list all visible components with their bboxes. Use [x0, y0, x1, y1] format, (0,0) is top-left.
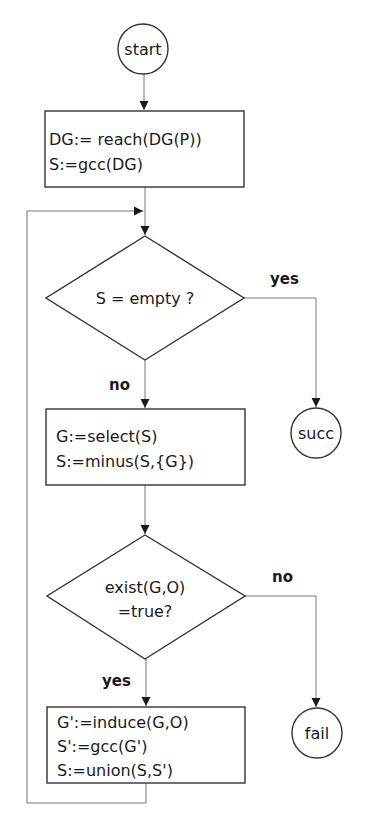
node-induce-line-1: G':=induce(G,O): [57, 713, 189, 732]
node-start-label: start: [124, 40, 161, 59]
node-succ-label: succ: [298, 424, 334, 443]
node-check-empty: S = empty ?: [46, 236, 244, 360]
edge-label-yes-induce: yes: [102, 672, 131, 690]
node-induce-line-3: S:=union(S,S'): [57, 761, 173, 780]
node-check-empty-label: S = empty ?: [96, 289, 195, 308]
node-init: DG:= reach(DG(P)) S:=gcc(DG): [45, 111, 244, 187]
node-select-line-1: G:=select(S): [56, 427, 157, 446]
node-start: start: [118, 24, 168, 74]
node-fail: fail: [292, 708, 342, 758]
flowchart-canvas: start DG:= reach(DG(P)) S:=gcc(DG) S = e…: [0, 0, 369, 836]
node-induce: G':=induce(G,O) S':=gcc(G') S:=union(S,S…: [47, 707, 245, 783]
edge-label-no-fail: no: [272, 568, 293, 586]
edge-check-exist-no-to-fail: [245, 596, 316, 707]
node-fail-label: fail: [305, 724, 329, 743]
edge-label-no-select: no: [109, 376, 130, 394]
edge-check-empty-yes-to-succ: [244, 298, 316, 407]
node-induce-line-2: S':=gcc(G'): [57, 737, 147, 756]
node-succ: succ: [291, 408, 341, 458]
node-init-line-1: DG:= reach(DG(P)): [49, 130, 202, 149]
edge-label-yes-succ: yes: [270, 270, 299, 288]
node-select: G:=select(S) S:=minus(S,{G}): [46, 409, 245, 485]
node-select-line-2: S:=minus(S,{G}): [56, 452, 194, 471]
node-check-exist-line-2: =true?: [118, 602, 173, 621]
node-check-exist-line-1: exist(G,O): [105, 578, 186, 597]
node-init-line-2: S:=gcc(DG): [49, 155, 143, 174]
node-check-exist: exist(G,O) =true?: [47, 535, 245, 659]
